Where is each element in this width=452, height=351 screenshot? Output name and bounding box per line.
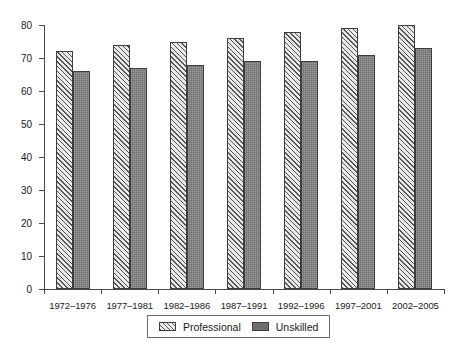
x-axis-category-label: 1977–1981 xyxy=(106,300,153,311)
bar-unskilled-1992–1996 xyxy=(301,61,318,289)
legend-entry-professional: Professional xyxy=(159,321,241,333)
plot-area: 01020304050607080 1972–19761977–19811982… xyxy=(44,14,444,289)
x-axis-category-label: 1972–1976 xyxy=(49,300,96,311)
legend-label-professional: Professional xyxy=(183,321,241,333)
legend-swatch-unskilled-icon xyxy=(252,322,269,331)
bar-professional-1987–1991 xyxy=(227,38,244,289)
x-axis-category-label: 1997–2001 xyxy=(335,300,382,311)
chart-legend: Professional Unskilled xyxy=(147,315,330,338)
y-axis-tick xyxy=(39,256,44,257)
legend-label-unskilled: Unskilled xyxy=(276,321,319,333)
y-axis-line xyxy=(44,25,45,289)
legend-swatch-professional-icon xyxy=(159,322,176,331)
bar-unskilled-1987–1991 xyxy=(244,61,261,289)
y-axis-tick xyxy=(39,223,44,224)
y-axis-tick xyxy=(39,25,44,26)
bar-chart: 01020304050607080 1972–19761977–19811982… xyxy=(0,0,452,351)
bar-unskilled-1972–1976 xyxy=(73,71,90,289)
y-axis-tick xyxy=(39,190,44,191)
bar-professional-1977–1981 xyxy=(113,45,130,289)
y-axis-tick xyxy=(39,157,44,158)
x-axis-tick xyxy=(44,289,45,294)
bar-unskilled-1977–1981 xyxy=(130,68,147,289)
bar-unskilled-2002–2005 xyxy=(415,48,432,289)
x-axis-tick xyxy=(158,289,159,294)
bar-professional-2002–2005 xyxy=(398,25,415,289)
x-axis-tick xyxy=(101,289,102,294)
x-axis-tick xyxy=(444,289,445,294)
x-axis-category-label: 1992–1996 xyxy=(278,300,325,311)
bar-professional-1982–1986 xyxy=(170,42,187,290)
bar-unskilled-1997–2001 xyxy=(358,55,375,289)
x-axis-tick xyxy=(273,289,274,294)
x-axis-category-label: 1987–1991 xyxy=(221,300,268,311)
bar-professional-1972–1976 xyxy=(56,51,73,289)
x-axis-tick xyxy=(215,289,216,294)
y-axis-tick xyxy=(39,91,44,92)
x-axis-tick xyxy=(387,289,388,294)
y-axis-tick xyxy=(39,124,44,125)
x-axis-tick xyxy=(330,289,331,294)
y-axis-tick xyxy=(39,58,44,59)
bar-unskilled-1982–1986 xyxy=(187,65,204,289)
x-axis-category-label: 1982–1986 xyxy=(164,300,211,311)
x-axis-category-label: 2002–2005 xyxy=(392,300,439,311)
bar-professional-1997–2001 xyxy=(341,28,358,289)
legend-entry-unskilled: Unskilled xyxy=(252,321,319,333)
bar-professional-1992–1996 xyxy=(284,32,301,289)
x-axis-line xyxy=(44,289,444,290)
